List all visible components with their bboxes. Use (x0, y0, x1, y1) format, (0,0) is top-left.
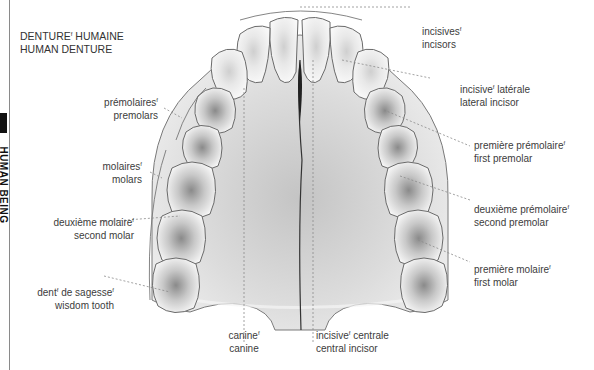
label-second-premolar: deuxième prémolairef second premolar (474, 204, 569, 229)
upper-jaw-illustration (0, 0, 594, 370)
tooth-first-molar-left (167, 162, 216, 219)
label-first-molar: première molairef first molar (474, 264, 551, 289)
label-molars: molairesf molars (103, 161, 142, 186)
incisors-bracket (240, 11, 362, 20)
tooth-wisdom-right (400, 258, 447, 313)
label-lateral-incisor: incisivef latérale lateral incisor (460, 84, 530, 109)
label-central-incisor: incisivef centrale central incisor (316, 330, 389, 355)
label-wisdom-tooth: dentf de sagessef wisdom tooth (37, 287, 114, 312)
label-first-premolar: première prémolairef first premolar (474, 140, 565, 165)
tooth-first-molar-right (384, 162, 433, 219)
label-premolars: prémolairesf premolars (104, 97, 158, 122)
label-canine: caninef canine (218, 330, 270, 355)
label-incisors: incisivesf incisors (422, 26, 461, 51)
tooth-wisdom-left (152, 258, 199, 313)
label-second-molar: deuxième molairef second molar (53, 217, 134, 242)
